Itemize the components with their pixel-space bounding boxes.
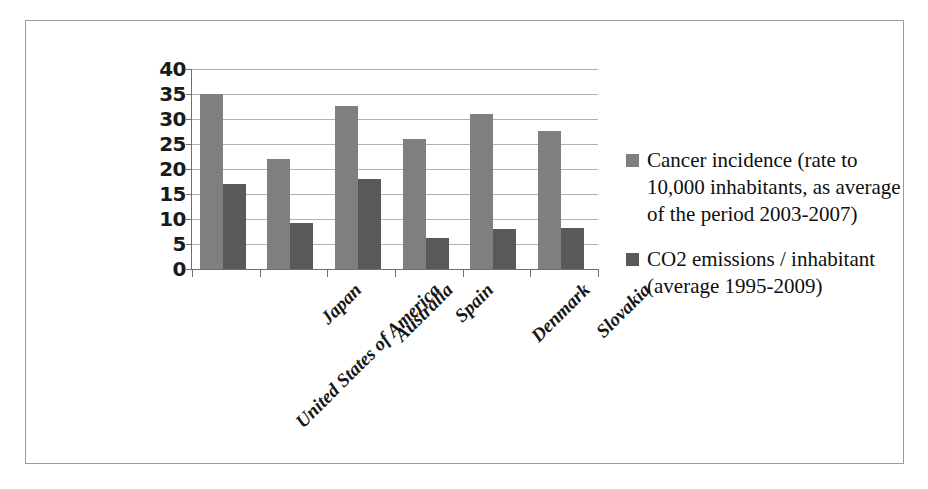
bar	[561, 228, 584, 269]
bar	[290, 223, 313, 270]
bar-group	[395, 69, 463, 269]
legend-entry: Cancer incidence (rate to 10,000 inhabit…	[626, 147, 916, 228]
x-axis-tick	[260, 270, 261, 277]
y-axis-tick-label: 5	[173, 234, 186, 254]
bar-group	[327, 69, 395, 269]
x-axis-tick	[530, 270, 531, 277]
y-axis-tick-label: 35	[159, 84, 186, 104]
legend-label: CO2 emissions / inhabitant (average 1995…	[647, 246, 916, 300]
y-axis-tick-label: 10	[159, 209, 186, 229]
chart-figure: 0510152025303540 United States of Americ…	[0, 0, 928, 489]
x-axis-category-label: Japan	[316, 279, 366, 329]
chart-legend: Cancer incidence (rate to 10,000 inhabit…	[626, 147, 916, 317]
x-axis-category-label: Spain	[450, 279, 498, 327]
legend-swatch-icon	[626, 253, 639, 266]
bar	[426, 238, 449, 269]
legend-entry: CO2 emissions / inhabitant (average 1995…	[626, 246, 916, 300]
plot-area	[192, 69, 598, 269]
x-axis-tick	[598, 270, 599, 277]
bar-group	[260, 69, 328, 269]
y-axis-tick-label: 30	[159, 109, 186, 129]
y-axis-tick-label: 15	[159, 184, 186, 204]
y-axis-tick-label: 40	[159, 59, 186, 79]
bar-group	[463, 69, 531, 269]
x-axis-tick	[192, 270, 193, 277]
bar	[470, 114, 493, 269]
bar	[358, 179, 381, 269]
x-axis-tick	[395, 270, 396, 277]
bar	[223, 184, 246, 269]
bar-group	[192, 69, 260, 269]
bar	[493, 229, 516, 269]
bar	[267, 159, 290, 269]
bar	[200, 94, 223, 269]
y-axis-tick-label: 20	[159, 159, 186, 179]
x-axis-tick	[463, 270, 464, 277]
bar-group	[530, 69, 598, 269]
bar	[538, 131, 561, 270]
bar	[403, 139, 426, 269]
chart-frame: 0510152025303540 United States of Americ…	[25, 20, 904, 464]
legend-swatch-icon	[626, 154, 639, 167]
legend-label: Cancer incidence (rate to 10,000 inhabit…	[647, 147, 916, 228]
bar	[335, 106, 358, 270]
y-axis-tick-label: 25	[159, 134, 186, 154]
y-axis-tick-label: 0	[173, 259, 186, 279]
y-axis-tick-labels: 0510152025303540	[144, 69, 186, 269]
x-axis-category-label: Denmark	[526, 279, 594, 347]
x-axis-tick	[327, 270, 328, 277]
